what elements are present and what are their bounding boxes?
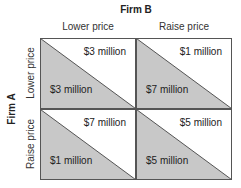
firm-b-label: Firm B: [0, 4, 241, 15]
firm-a-payoff: $3 million: [50, 84, 92, 95]
firm-a-payoff: $7 million: [146, 84, 188, 95]
firm-a-payoff: $1 million: [50, 155, 92, 166]
firm-a-label: Firm A: [6, 93, 17, 124]
matrix-cell: $5 million $5 million: [136, 109, 232, 180]
matrix-cell: $7 million $1 million: [40, 109, 136, 180]
row-label-raise-price: Raise price: [25, 119, 36, 169]
matrix-cell: $3 million $3 million: [40, 38, 136, 109]
matrix-cell: $1 million $7 million: [136, 38, 232, 109]
row-label-lower-price: Lower price: [25, 47, 36, 99]
column-label-lower-price: Lower price: [40, 21, 136, 32]
payoff-matrix: $3 million $3 million $1 million $7 mill…: [40, 38, 232, 180]
firm-a-payoff: $5 million: [146, 155, 188, 166]
firm-b-payoff: $3 million: [84, 46, 126, 57]
firm-b-payoff: $1 million: [180, 46, 222, 57]
firm-b-payoff: $5 million: [180, 117, 222, 128]
firm-b-payoff: $7 million: [84, 117, 126, 128]
column-label-raise-price: Raise price: [136, 21, 232, 32]
